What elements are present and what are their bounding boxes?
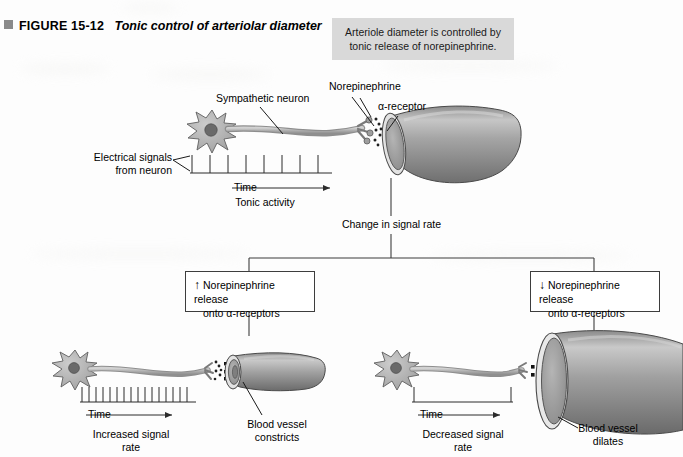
- label-vessel-dilates-line2: dilates: [558, 435, 658, 448]
- label-sympathetic-neuron: Sympathetic neuron: [216, 92, 309, 105]
- label-increased-rate-line2: rate: [66, 441, 196, 454]
- label-electrical-signals-line1: Electrical signals: [58, 151, 172, 164]
- box-right-line2: onto α-receptors: [539, 306, 651, 320]
- label-decreased-rate-line2: rate: [398, 441, 528, 454]
- axon-terminal-bottom-left: [205, 361, 227, 381]
- leader-norepinephrine-2: [352, 97, 374, 126]
- box-left-line2: onto α-receptors: [194, 306, 306, 320]
- label-tonic-activity: Tonic activity: [200, 196, 330, 209]
- spike-train-top: [190, 155, 332, 188]
- label-increased-rate-line1: Increased signal: [66, 428, 196, 441]
- nucleus-top: [205, 124, 217, 136]
- label-vessel-constricts-line2: constricts: [227, 431, 327, 444]
- leader-electrical-signals-b: [173, 160, 190, 171]
- box-left-line1: Norepinephrine release: [194, 279, 275, 305]
- box-decreased-ne-release: ↓Norepinephrine release onto α-receptors: [530, 271, 660, 312]
- arrow-up-icon: ↑: [194, 279, 203, 291]
- arrow-down-icon: ↓: [539, 279, 548, 291]
- figure-container: FIGURE 15-12 Tonic control of arteriolar…: [0, 0, 683, 457]
- label-alpha-receptor: α-receptor: [378, 100, 426, 113]
- label-decreased-rate-line1: Decreased signal: [398, 428, 528, 441]
- label-vessel-dilates-line1: Blood vessel: [558, 422, 658, 435]
- label-time-right: Time: [420, 408, 443, 421]
- label-electrical-signals-line2: from neuron: [58, 164, 172, 177]
- lumen-dilated: [542, 338, 567, 424]
- box-right-line1: Norepinephrine release: [539, 279, 620, 305]
- arteriole-top: [379, 106, 521, 183]
- label-change-in-signal-rate: Change in signal rate: [314, 218, 469, 231]
- label-time-left: Time: [88, 408, 111, 421]
- leader-electrical-signals-a: [173, 156, 190, 160]
- axon-terminal-bottom-right: [519, 363, 535, 378]
- arteriole-constricted: [225, 353, 325, 391]
- arteriole-dilated: [536, 331, 683, 434]
- label-time-top: Time: [234, 181, 257, 194]
- box-increased-ne-release: ↑Norepinephrine release onto α-receptors: [185, 271, 315, 312]
- label-norepinephrine: Norepinephrine: [329, 80, 401, 93]
- label-vessel-constricts-line1: Blood vessel: [227, 418, 327, 431]
- lumen-constricted: [232, 366, 237, 379]
